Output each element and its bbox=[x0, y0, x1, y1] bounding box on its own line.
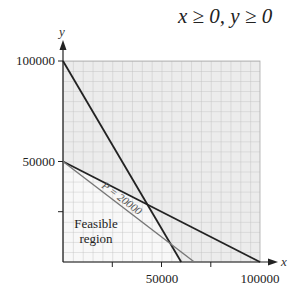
feasible-region-label-line1: Feasible bbox=[74, 216, 118, 231]
y-label-100000: 100000 bbox=[16, 53, 55, 68]
y-axis-name: y bbox=[57, 24, 65, 39]
x-label-50000: 50000 bbox=[146, 271, 179, 286]
feasible-region-label-line2: region bbox=[79, 231, 113, 246]
y-axis-arrow-icon bbox=[60, 40, 67, 50]
x-axis-arrow-icon bbox=[268, 259, 278, 266]
x-axis-name: x bbox=[280, 254, 287, 269]
x-label-100000: 100000 bbox=[241, 271, 280, 286]
chart: 100000 50000 50000 100000 y x P = 20000 … bbox=[0, 0, 298, 294]
y-label-50000: 50000 bbox=[23, 154, 56, 169]
